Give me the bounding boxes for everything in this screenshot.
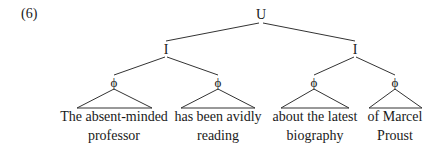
node-phi-3: ϕ xyxy=(311,76,318,90)
edge-u-i-right xyxy=(263,23,355,41)
leaf-line: of Marcel xyxy=(368,107,423,126)
edge-i-phi-2 xyxy=(167,57,218,75)
node-i-right: I xyxy=(353,43,358,57)
node-i-left: I xyxy=(164,43,169,57)
node-phi-2: ϕ xyxy=(215,76,222,90)
edge-u-i-left xyxy=(166,23,259,41)
triangle-phi-2 xyxy=(181,89,255,108)
edge-i-phi-1 xyxy=(114,57,165,75)
leaf-line: about the latest xyxy=(273,107,358,126)
leaf-line: biography xyxy=(273,126,358,143)
leaf-phi-1: The absent-minded professor xyxy=(60,107,168,143)
leaf-phi-4: of Marcel Proust xyxy=(368,107,423,143)
leaf-line: has been avidly xyxy=(174,107,261,126)
node-phi-4: ϕ xyxy=(392,76,399,90)
leaf-line: Proust xyxy=(368,126,423,143)
edge-i-phi-4 xyxy=(356,57,395,75)
node-u: U xyxy=(256,8,266,22)
leaf-line: The absent-minded xyxy=(60,107,168,126)
triangle-phi-4 xyxy=(369,89,422,108)
leaf-phi-3: about the latest biography xyxy=(273,107,358,143)
triangle-phi-1 xyxy=(77,89,152,108)
triangle-phi-3 xyxy=(281,89,349,108)
leaf-phi-2: has been avidly reading xyxy=(174,107,261,143)
leaf-line: reading xyxy=(174,126,261,143)
node-phi-1: ϕ xyxy=(111,76,118,90)
edge-i-phi-3 xyxy=(314,57,354,75)
leaf-line: professor xyxy=(60,126,168,143)
